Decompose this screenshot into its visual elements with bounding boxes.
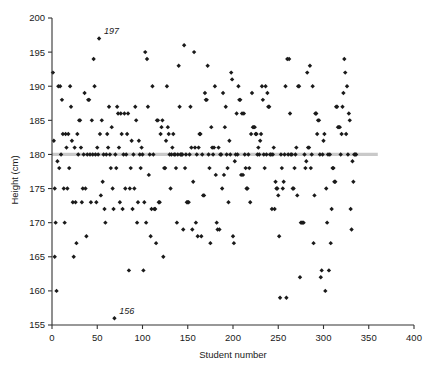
x-tick-label: 100 [135,332,151,343]
y-tick-label: 185 [29,115,45,126]
x-tick-label: 250 [270,332,286,343]
x-tick-label: 300 [316,332,332,343]
y-tick-label: 180 [29,149,45,160]
x-axis-title: Student number [199,349,267,360]
x-tick-label: 50 [92,332,103,343]
scatter-chart-figure: 155160165170175180185190195200 050100150… [0,0,441,380]
x-tick-label: 350 [361,332,377,343]
chart-svg: 155160165170175180185190195200 050100150… [0,0,441,380]
outlier-label-197: 197 [104,26,120,36]
y-tick-label: 160 [29,285,45,296]
chart-background [0,0,441,380]
y-tick-label: 165 [29,251,45,262]
x-tick-label: 0 [49,332,54,343]
x-tick-label: 400 [406,332,422,343]
x-tick-label: 200 [225,332,241,343]
x-tick-label: 150 [180,332,196,343]
y-tick-label: 190 [29,81,45,92]
outlier-label-156: 156 [119,306,134,316]
y-axis-title: Height (cm) [9,155,20,204]
y-tick-label: 155 [29,319,45,330]
y-tick-label: 170 [29,217,45,228]
y-tick-label: 195 [29,47,45,58]
y-tick-label: 200 [29,12,45,23]
y-tick-label: 175 [29,183,45,194]
